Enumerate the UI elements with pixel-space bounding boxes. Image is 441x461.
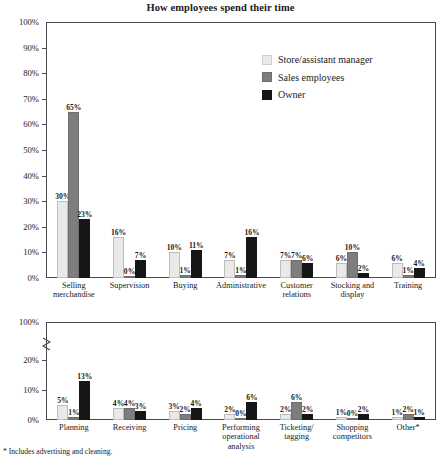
y-axis-tick-label: 80% [0, 68, 39, 78]
bar: 1% [414, 417, 425, 420]
bar: 6% [246, 402, 257, 420]
bar: 5% [57, 405, 68, 420]
page-title: How employees spend their time [0, 2, 441, 13]
bar-value-label: 0% [124, 267, 135, 276]
y-axis-tick-label: 20% [0, 355, 39, 365]
bar-value-label: 6% [302, 254, 313, 263]
x-axis-category-label: Other* [374, 423, 441, 432]
y-axis-tick-label: 10% [0, 385, 39, 395]
bar-value-label: 7% [135, 251, 146, 260]
bar-value-label: 2% [358, 264, 369, 273]
bar-value-label: 65% [66, 103, 81, 112]
bar-value-label: 0% [235, 409, 246, 418]
bar-value-label: 1% [235, 266, 246, 275]
bar: 23% [79, 219, 90, 278]
bar: 4% [124, 408, 135, 420]
bar: 2% [180, 414, 191, 420]
y-axis-tick-label: 30% [0, 196, 39, 206]
bar: 2% [280, 414, 291, 420]
bar: 1% [68, 417, 79, 420]
y-axis-tick-label: 90% [0, 43, 39, 53]
bar-value-label: 7% [280, 251, 291, 260]
legend-item-label: Owner [278, 89, 305, 100]
bar-value-label: 2% [224, 405, 235, 414]
bar-value-label: 5% [57, 396, 68, 405]
bar: 2% [224, 414, 235, 420]
bar-value-label: 1% [180, 266, 191, 275]
bar-value-label: 3% [169, 402, 180, 411]
bar-value-label: 2% [280, 405, 291, 414]
bar: 65% [68, 112, 79, 278]
bar-group: 6%1%4% [380, 22, 436, 278]
legend-item: Store/assistant manager [262, 52, 373, 67]
bar-value-label: 2% [402, 405, 413, 414]
bar: 1% [392, 417, 403, 420]
y-axis-tick-label: 0% [0, 415, 39, 425]
bar-value-label: 1% [413, 408, 424, 417]
axis-break-icon [41, 336, 53, 352]
bar: 7% [291, 260, 302, 278]
bar: 6% [392, 263, 403, 278]
bar-value-label: 2% [358, 405, 369, 414]
bar: 2% [358, 273, 369, 278]
bar-value-label: 2% [302, 405, 313, 414]
bar-value-label: 4% [113, 399, 124, 408]
bar-value-label: 0% [347, 409, 358, 418]
bar: 4% [113, 408, 124, 420]
bar: 16% [113, 237, 124, 278]
bar-value-label: 1% [402, 266, 413, 275]
bar-value-label: 6% [246, 393, 257, 402]
bar-value-label: 1% [391, 408, 402, 417]
bar-value-label: 10% [345, 243, 360, 252]
bar: 6% [336, 263, 347, 278]
bar: 1% [403, 275, 414, 278]
bar-value-label: 7% [224, 251, 235, 260]
bar-group: 30%65%23% [46, 22, 102, 278]
legend-item-label: Store/assistant manager [278, 54, 373, 65]
x-axis-category-label: Training [374, 281, 441, 290]
bar: 4% [191, 408, 202, 420]
bar: 2% [302, 414, 313, 420]
bar: 1% [180, 275, 191, 278]
bar: 1% [336, 417, 347, 420]
bar: 2% [358, 414, 369, 420]
bar: 6% [302, 263, 313, 278]
bar-group: 5%1%13% [46, 322, 102, 420]
bar: 30% [57, 201, 68, 278]
bar: 16% [246, 237, 257, 278]
bar-value-label: 13% [77, 372, 92, 381]
legend-swatch-icon [262, 90, 272, 100]
bar-group: 3%2%4% [157, 322, 213, 420]
bar-value-label: 6% [391, 254, 402, 263]
bar: 1% [235, 275, 246, 278]
bar-value-label: 16% [244, 228, 259, 237]
bar: 10% [347, 252, 358, 278]
bar-group: 7%1%16% [213, 22, 269, 278]
y-axis-tick-label: 40% [0, 171, 39, 181]
y-axis-tick-label: 100% [0, 17, 39, 27]
bar-value-label: 3% [135, 402, 146, 411]
bar-group: 2%6%2% [269, 322, 325, 420]
bar-value-label: 1% [68, 408, 79, 417]
bar-value-label: 7% [291, 251, 302, 260]
bar: 2% [403, 414, 414, 420]
bar-value-label: 6% [291, 393, 302, 402]
y-axis-tick-label: 10% [0, 247, 39, 257]
bar-value-label: 4% [413, 259, 424, 268]
bar: 7% [280, 260, 291, 278]
legend: Store/assistant managerSales employeesOw… [262, 52, 373, 105]
y-axis-tick-label: 100% [0, 317, 39, 327]
bar: 10% [169, 252, 180, 278]
legend-item-label: Sales employees [278, 72, 344, 83]
legend-item: Sales employees [262, 70, 373, 85]
bar-value-label: 2% [180, 405, 191, 414]
y-axis-tick-label: 50% [0, 145, 39, 155]
bar: 13% [79, 381, 90, 420]
legend-swatch-icon [262, 72, 272, 82]
bar-value-label: 4% [124, 399, 135, 408]
bar-group: 4%4%3% [102, 322, 158, 420]
bar: 0% [124, 276, 135, 278]
y-axis-tick-label: 70% [0, 94, 39, 104]
bar: 3% [135, 411, 146, 420]
bar-value-label: 11% [189, 241, 204, 250]
